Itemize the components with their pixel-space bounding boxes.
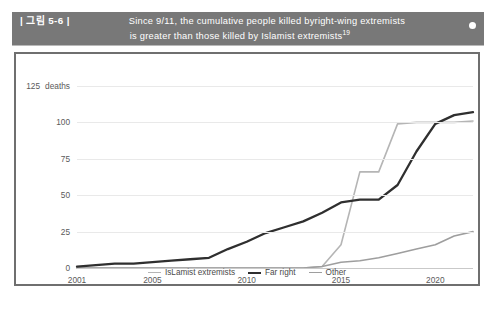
legend-line-swatch <box>248 272 261 274</box>
legend-item[interactable]: Other <box>309 268 346 277</box>
series-line <box>77 112 473 266</box>
chart-container: 0255075100125deaths20012005201020152020 … <box>14 52 480 286</box>
gridline-y-100 <box>77 122 473 123</box>
figure-number-tag: | 그림 5-6 | <box>20 14 70 29</box>
y-axis-tick-label: 25 <box>61 227 70 237</box>
series-lines <box>77 86 473 268</box>
figure-caption-line-1: | 그림 5-6 | Since 9/11, the cumulative pe… <box>20 14 460 29</box>
figure-caption-line-2: is greater than those killed by Islamist… <box>20 29 460 44</box>
y-axis-tick-label: 125deaths <box>26 81 70 91</box>
plot-area: 0255075100125deaths20012005201020152020 <box>77 86 473 268</box>
figure-caption-text-2: is greater than those killed by Islamist… <box>130 31 343 41</box>
figure-caption-text-1: Since 9/11, the cumulative people killed… <box>129 16 405 26</box>
legend-item[interactable]: Far right <box>248 268 295 277</box>
legend-line-swatch <box>148 272 161 273</box>
legend-line-swatch <box>309 272 322 273</box>
legend-label: Other <box>326 268 346 277</box>
gridline-y-75 <box>77 159 473 160</box>
y-axis-tick-label: 75 <box>61 154 70 164</box>
legend-label: Far right <box>265 268 295 277</box>
gridline-y-125 <box>77 86 473 87</box>
y-axis-tick-label: 100 <box>56 117 70 127</box>
bullet-dot-icon <box>469 22 476 29</box>
figure-header-bar: | 그림 5-6 | Since 9/11, the cumulative pe… <box>12 12 484 45</box>
legend-label: IsLamist extremists <box>165 268 235 277</box>
chart-legend: IsLamist extremistsFar rightOther <box>16 268 478 277</box>
y-axis-tick-label: 50 <box>61 190 70 200</box>
y-axis-unit-label: deaths <box>45 81 70 91</box>
figure-caption: | 그림 5-6 | Since 9/11, the cumulative pe… <box>20 14 460 43</box>
gridline-y-50 <box>77 195 473 196</box>
gridline-y-25 <box>77 232 473 233</box>
legend-item[interactable]: IsLamist extremists <box>148 268 235 277</box>
footnote-marker: 19 <box>342 28 350 35</box>
